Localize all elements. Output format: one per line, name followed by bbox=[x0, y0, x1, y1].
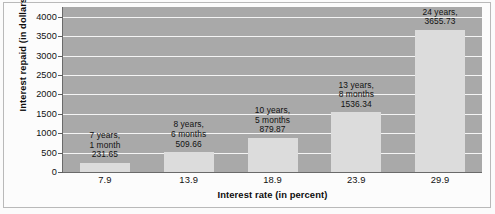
bar-chart-figure: Interest repaid (in dollars) 05001000150… bbox=[0, 0, 495, 214]
y-tick-mark bbox=[58, 172, 63, 173]
x-tick-label: 7.9 bbox=[98, 174, 111, 185]
y-tick-mark bbox=[58, 36, 63, 37]
y-tick-label: 2500 bbox=[22, 70, 57, 80]
plot-area: 7 years,1 month231.658 years,6 months509… bbox=[63, 7, 482, 172]
bar[interactable] bbox=[331, 112, 381, 172]
x-axis-line bbox=[63, 172, 482, 173]
x-tick-label: 18.9 bbox=[263, 174, 282, 185]
y-tick-mark bbox=[58, 153, 63, 154]
y-tick-label: 0 bbox=[22, 167, 57, 177]
y-tick-label: 3500 bbox=[22, 31, 57, 41]
bar[interactable] bbox=[248, 138, 298, 172]
y-tick-label: 1500 bbox=[22, 109, 57, 119]
bar-value-label-line: 231.65 bbox=[60, 150, 150, 160]
y-tick-mark bbox=[58, 17, 63, 18]
bar[interactable] bbox=[80, 163, 130, 172]
bar-value-label: 10 years,5 months879.87 bbox=[228, 106, 318, 135]
y-tick-label: 3000 bbox=[22, 51, 57, 61]
x-tick-label: 23.9 bbox=[347, 174, 366, 185]
y-tick-label: 500 bbox=[22, 148, 57, 158]
y-tick-mark bbox=[58, 114, 63, 115]
y-tick-label: 1000 bbox=[22, 128, 57, 138]
bar-value-label: 24 years,3655.73 bbox=[395, 8, 485, 27]
y-tick-label: 2000 bbox=[22, 89, 57, 99]
y-axis-line bbox=[62, 7, 63, 173]
x-tick-label: 13.9 bbox=[179, 174, 198, 185]
bar-value-label-line: 509.66 bbox=[144, 140, 234, 150]
x-axis-tick-labels: 7.913.918.923.929.9 bbox=[63, 174, 482, 188]
y-tick-label: 4000 bbox=[22, 12, 57, 22]
bar[interactable] bbox=[415, 30, 465, 172]
bar-value-label: 8 years,6 months509.66 bbox=[144, 120, 234, 149]
x-axis-title: Interest rate (in percent) bbox=[63, 189, 482, 200]
x-tick-label: 29.9 bbox=[431, 174, 450, 185]
y-tick-mark bbox=[58, 133, 63, 134]
bar-value-label-line: 879.87 bbox=[228, 125, 318, 135]
y-tick-mark bbox=[58, 75, 63, 76]
y-tick-mark bbox=[58, 94, 63, 95]
bar-value-label-line: 3655.73 bbox=[395, 17, 485, 27]
bar[interactable] bbox=[164, 152, 214, 172]
bar-value-label-line: 1536.34 bbox=[311, 100, 401, 110]
y-tick-mark bbox=[58, 56, 63, 57]
bar-value-label: 7 years,1 month231.65 bbox=[60, 131, 150, 160]
y-axis-tick-labels: 05001000150020002500300035004000 bbox=[22, 7, 57, 172]
bar-value-label: 13 years,8 months1536.34 bbox=[311, 81, 401, 110]
